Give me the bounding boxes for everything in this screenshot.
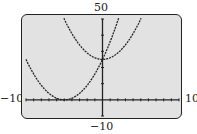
ymax-label: 50 [94,2,108,13]
calculator-screen [21,14,182,119]
ymin-label: −10 [90,121,113,132]
xmax-label: 10 [185,93,197,104]
xmin-label: −10 [0,93,23,104]
graph-plot [22,15,182,119]
